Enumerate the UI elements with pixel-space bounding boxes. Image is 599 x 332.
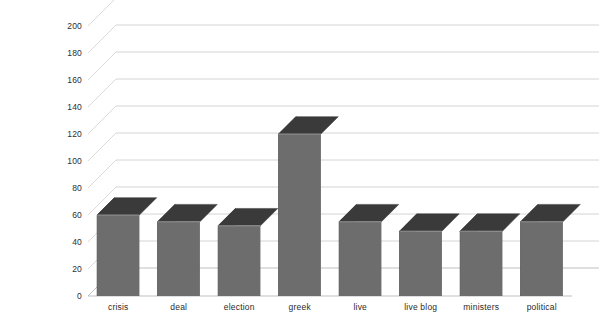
bar-top-face — [400, 214, 460, 231]
x-axis-category-label: election — [224, 302, 255, 312]
x-axis-category-labels: crisisdealelectiongreeklivelive blogmini… — [108, 302, 557, 312]
bar-live — [339, 204, 399, 296]
y-axis-tick-label: 180 — [67, 48, 82, 58]
bar-live-blog — [400, 214, 460, 296]
x-axis-category-label: ministers — [463, 302, 499, 312]
bar-front-face — [279, 134, 321, 296]
bars-group — [97, 117, 580, 296]
bar-top-face — [521, 204, 581, 221]
gridline-depth-segment — [88, 133, 116, 161]
y-axis-tick-label: 120 — [67, 129, 82, 139]
y-axis-tick-label: 40 — [72, 237, 82, 247]
x-axis-category-label: live blog — [404, 302, 437, 312]
y-axis-tick-label: 0 — [77, 291, 82, 301]
bar-ministers — [460, 214, 520, 296]
y-axis-tick-label: 160 — [67, 75, 82, 85]
bar-top-face — [97, 198, 157, 215]
bar-front-face — [460, 231, 502, 296]
gridline-depth-segment — [88, 106, 116, 134]
bar-political — [521, 204, 581, 296]
bar-top-face — [158, 204, 218, 221]
gridline-depth-segment — [88, 25, 116, 53]
bar-top-face — [339, 204, 399, 221]
y-axis-tick-label: 200 — [67, 21, 82, 31]
chart-canvas: 200180160140120100806040200 crisisdealel… — [0, 0, 599, 332]
bar-top-face — [460, 214, 520, 231]
bar-front-face — [521, 222, 563, 296]
x-axis-category-label: greek — [289, 302, 312, 312]
x-axis-category-label: deal — [170, 302, 187, 312]
x-axis-category-label: political — [527, 302, 557, 312]
y-axis-tick-label: 60 — [72, 210, 82, 220]
y-axis-tick-label: 140 — [67, 102, 82, 112]
bar-deal — [158, 204, 218, 296]
y-axis-tick-label: 80 — [72, 183, 82, 193]
y-axis-tick-labels: 200180160140120100806040200 — [67, 21, 82, 301]
gridline-depth-segment — [88, 160, 116, 188]
x-axis-category-label: crisis — [108, 302, 129, 312]
bar-top-face — [279, 117, 339, 134]
bar-front-face — [339, 222, 381, 296]
x-axis-category-label: live — [353, 302, 367, 312]
bar-front-face — [158, 222, 200, 296]
bar-chart: 200180160140120100806040200 crisisdealel… — [0, 0, 599, 332]
y-axis-tick-label: 20 — [72, 264, 82, 274]
bar-front-face — [97, 215, 139, 296]
gridline-depth-segment — [88, 0, 116, 26]
bar-front-face — [400, 231, 442, 296]
bar-front-face — [218, 226, 260, 296]
gridline-depth-segment — [88, 79, 116, 107]
y-axis-tick-label: 100 — [67, 156, 82, 166]
gridline-depth-segment — [88, 52, 116, 80]
bar-election — [218, 208, 278, 296]
bar-top-face — [218, 208, 278, 225]
bar-crisis — [97, 198, 157, 296]
bar-greek — [279, 117, 339, 296]
